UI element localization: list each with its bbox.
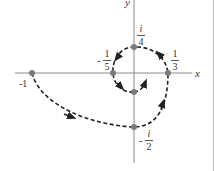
x-axis-label: x	[195, 68, 200, 79]
label-minus-one: -1	[19, 79, 27, 89]
point-minus-one	[29, 70, 35, 76]
label-one-third: 1 3	[171, 49, 179, 72]
label-minus-i-half-sign: -	[139, 136, 142, 146]
label-minus-one-fifth-sign: -	[97, 56, 100, 66]
label-i-quarter: i 4	[137, 24, 145, 47]
page-edge-divider	[213, 0, 214, 171]
label-minus-i-half: i 2	[145, 129, 153, 152]
complex-plane-figure	[0, 0, 217, 171]
arrow-icon	[64, 114, 72, 117]
point-minus-i-half	[131, 124, 137, 130]
point-spiral-end	[131, 89, 137, 95]
y-axis-label: y	[125, 0, 130, 8]
label-minus-one-fifth: 1 5	[103, 49, 111, 72]
